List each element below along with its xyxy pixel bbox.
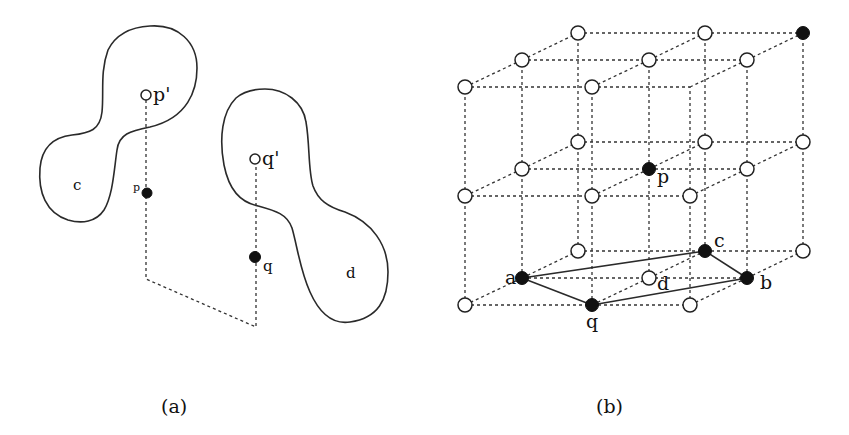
lattice-point	[458, 298, 472, 312]
label-region-c: c	[73, 176, 81, 194]
label-p: p	[657, 165, 669, 187]
lattice-point	[698, 135, 712, 149]
label-region-d: d	[346, 264, 356, 282]
caption-a: (a)	[161, 395, 187, 417]
lattice-point	[740, 162, 754, 176]
label-q: q	[586, 310, 598, 332]
lattice-edge-z	[522, 33, 578, 60]
lattice-point	[571, 135, 585, 149]
point-p-prime	[141, 90, 151, 100]
label-q-prime: q'	[262, 147, 279, 169]
lattice-edge-z	[465, 169, 522, 196]
lattice-edge-z	[747, 33, 803, 60]
panel-b: a b c d p q (b)	[458, 26, 810, 417]
lattice-point	[796, 244, 810, 258]
lattice-edge-z	[592, 278, 649, 305]
region-c-outline	[40, 26, 197, 222]
lattice-point	[740, 53, 754, 67]
solid-edge-a-q	[522, 278, 592, 305]
lattice-point	[571, 244, 585, 258]
lattice-point	[683, 189, 697, 203]
lattice-edge-z	[592, 169, 649, 196]
lattice-edge-z	[465, 60, 522, 87]
lattice-edge-z	[747, 251, 803, 278]
lattice-edge-z	[690, 169, 747, 196]
lattice-point	[458, 189, 472, 203]
figure: p' p q' q c d (a) a b c d p q (b)	[0, 0, 849, 435]
lattice-point	[515, 162, 529, 176]
lattice-point	[683, 298, 697, 312]
region-d-outline	[222, 89, 388, 322]
lattice-edge-z	[649, 33, 705, 60]
lattice-point-a	[516, 272, 529, 285]
lattice-point	[515, 53, 529, 67]
label-d: d	[657, 272, 669, 294]
label-q: q	[263, 257, 273, 275]
solid-edges	[522, 251, 747, 305]
lattice-point	[585, 189, 599, 203]
lattice-point	[585, 80, 599, 94]
lattice-point	[642, 53, 656, 67]
solid-edge-q-b	[592, 278, 747, 305]
label-b: b	[760, 271, 772, 293]
point-p	[142, 188, 152, 198]
lattice-point-b	[741, 272, 754, 285]
lattice-point	[571, 26, 585, 40]
lattice-point	[796, 135, 810, 149]
lattice-edge-z	[690, 278, 747, 305]
caption-b: (b)	[596, 395, 623, 417]
label-p-prime: p'	[153, 83, 170, 105]
lattice-edge-z	[747, 142, 803, 169]
lattice-point-c	[699, 245, 712, 258]
point-q-prime	[250, 154, 260, 164]
panel-a: p' p q' q c d (a)	[40, 26, 388, 417]
lattice-point	[698, 26, 712, 40]
lattice-point-corner	[797, 27, 810, 40]
lattice-point-p	[643, 163, 656, 176]
lattice-point-d	[642, 271, 656, 285]
label-p: p	[133, 181, 140, 194]
dashed-path	[146, 100, 256, 327]
label-c: c	[714, 229, 725, 251]
lattice-edge-z	[690, 60, 747, 87]
solid-edge-c-b	[705, 251, 747, 278]
label-a: a	[505, 266, 516, 288]
point-q	[250, 252, 261, 263]
lattice-edge-z	[522, 142, 578, 169]
lattice-point	[458, 80, 472, 94]
lattice-edge-z	[592, 60, 649, 87]
